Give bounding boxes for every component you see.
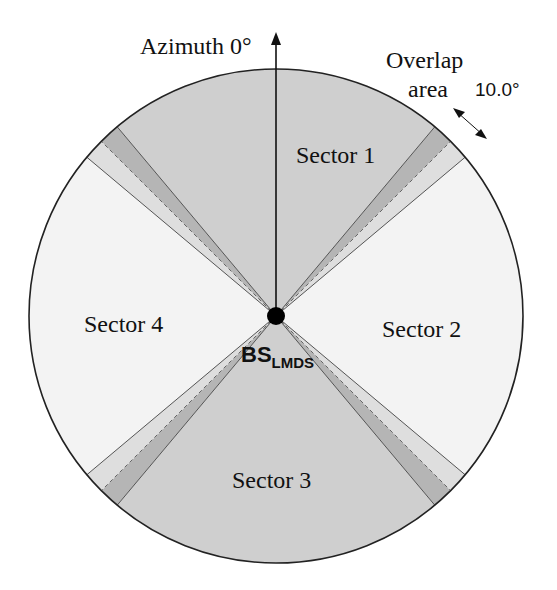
overlap-angle-label: 10.0°: [475, 79, 520, 100]
sector-3-label: Sector 3: [232, 467, 311, 493]
base-station-label-sub: LMDS: [272, 354, 315, 371]
azimuth-arrowhead-icon: [271, 32, 281, 45]
sector-1-label: Sector 1: [296, 142, 375, 168]
sector-diagram: Azimuth 0° Overlap area 10.0° Sector 1 S…: [0, 0, 557, 590]
overlap-label-line1: Overlap: [386, 47, 463, 73]
overlap-label-line2: area: [408, 76, 448, 102]
base-station-dot: [267, 307, 285, 325]
sector-4-label: Sector 4: [84, 311, 163, 337]
overlap-width-double-arrow-icon: [453, 108, 487, 139]
azimuth-label: Azimuth 0°: [140, 33, 252, 59]
sector-2-label: Sector 2: [382, 316, 461, 342]
base-station-label-main: BS: [241, 342, 272, 367]
